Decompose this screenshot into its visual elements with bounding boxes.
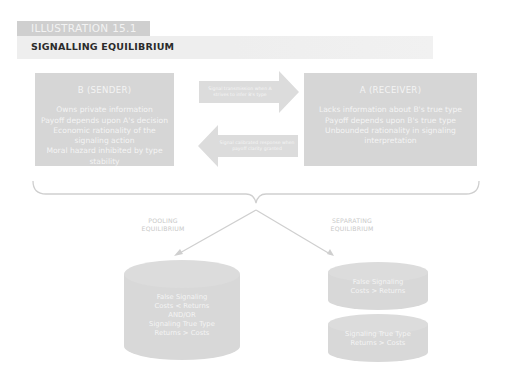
separating-top-cylinder-text: False Signaling Costs > Returns [330, 278, 426, 296]
cyl-line: False Signaling [330, 278, 426, 287]
cyl-line: Signaling True Type [127, 320, 237, 329]
cyl-line: Returns > Costs [330, 339, 426, 348]
cyl-line: Costs > Returns [330, 287, 426, 296]
separating-label-line: SEPARATING [320, 217, 384, 225]
cyl-line: Returns > Costs [127, 329, 237, 338]
pooling-label-line: EQUILIBRIUM [133, 225, 193, 233]
cyl-line: Signaling True Type [330, 330, 426, 339]
brace-connector [0, 0, 517, 375]
cyl-line: False Signaling [127, 293, 237, 302]
separating-label: SEPARATING EQUILIBRIUM [320, 217, 384, 232]
separating-bottom-cylinder-text: Signaling True Type Returns > Costs [330, 330, 426, 348]
pooling-cylinder-text: False Signaling Costs < Returns AND/OR S… [127, 293, 237, 338]
cyl-line: Costs < Returns [127, 302, 237, 311]
pooling-label-line: POOLING [133, 217, 193, 225]
separating-label-line: EQUILIBRIUM [320, 225, 384, 233]
cyl-line: AND/OR [127, 311, 237, 320]
pooling-label: POOLING EQUILIBRIUM [133, 217, 193, 232]
